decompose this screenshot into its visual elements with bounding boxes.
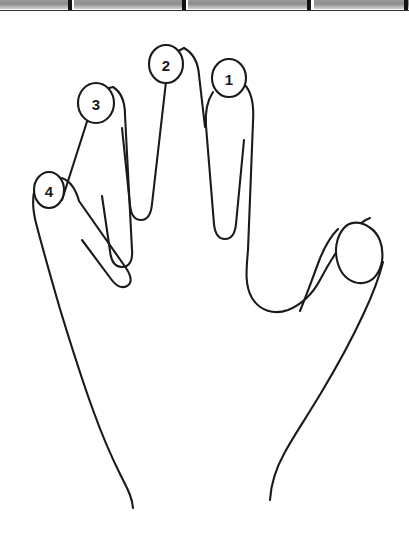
finger-outline-middle-right [184,48,205,127]
nail-4-label: 4 [45,183,54,200]
thumb-nail [336,223,382,283]
page-canvas: 1 2 3 4 [0,0,409,538]
thumb-and-wrist-right [270,262,383,500]
thumb-inner-edge [300,229,338,311]
finger-gap-index-middle [206,92,244,239]
hand-outline-left [33,188,133,508]
nail-2-label: 2 [162,57,170,74]
hand-diagram: 1 2 3 4 [0,0,409,538]
nail-3-label: 3 [92,96,100,113]
finger-outline-little-right [62,178,131,287]
numbered-nails: 1 2 3 4 [34,45,246,208]
nail-1-label: 1 [225,71,233,88]
